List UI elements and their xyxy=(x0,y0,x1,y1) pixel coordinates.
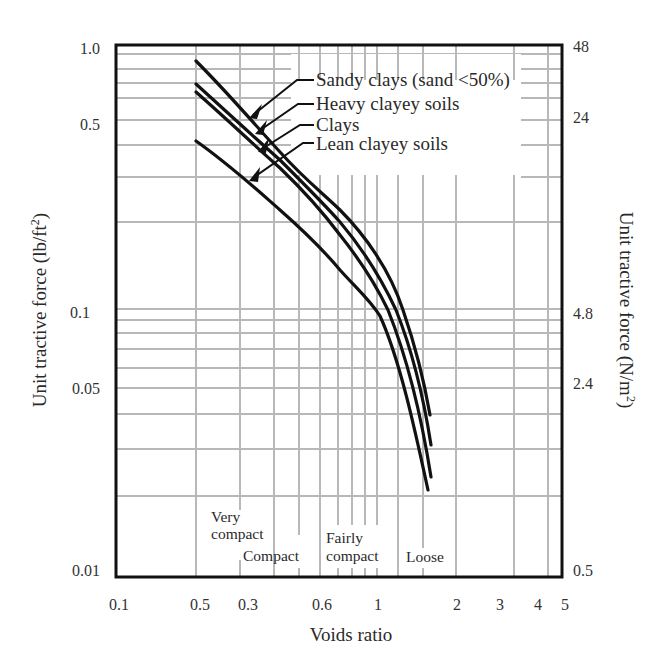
region-very-compact-line1: Very xyxy=(211,508,241,525)
region-very-compact-line2: compact xyxy=(211,525,264,542)
x-axis-title: Voids ratio xyxy=(310,624,393,645)
region-fairly-compact-line2: compact xyxy=(326,547,379,564)
x-tick: 0.3 xyxy=(238,596,258,613)
x-tick: 4 xyxy=(534,596,542,613)
y-right-axis-title: Unit tractive force (N/m2) xyxy=(615,212,638,408)
x-tick: 1 xyxy=(374,596,382,613)
region-loose: Loose xyxy=(406,548,444,565)
y-right-tick: 0.5 xyxy=(573,562,593,579)
y-left-tick: 0.01 xyxy=(72,562,100,579)
x-tick: 0.6 xyxy=(312,596,332,613)
legend-lean-clayey-soils: Lean clayey soils xyxy=(316,133,448,154)
y-left-axis-title: Unit tractive force (lb/ft2) xyxy=(28,213,51,407)
y-right-tick: 2.4 xyxy=(573,375,593,392)
arrow-head-icon xyxy=(249,167,260,182)
y-left-tick: 0.5 xyxy=(80,116,100,133)
y-left-tick: 1.0 xyxy=(80,40,100,57)
y-right-tick: 4.8 xyxy=(573,305,593,322)
x-tick: 3 xyxy=(496,596,504,613)
y-left-tick: 0.05 xyxy=(72,380,100,397)
y-right-tick: 48 xyxy=(573,38,589,55)
y-right-tick: 24 xyxy=(573,109,589,126)
legend-clays: Clays xyxy=(316,114,359,135)
region-compact: Compact xyxy=(243,547,300,564)
y-left-tick: 0.1 xyxy=(70,304,90,321)
x-tick: 5 xyxy=(561,596,569,613)
x-tick: 0.5 xyxy=(190,596,210,613)
region-fairly-compact-line1: Fairly xyxy=(326,529,363,546)
tractive-force-chart: Sandy clays (sand <50%) Heavy clayey soi… xyxy=(0,0,662,664)
legend-sandy-clays: Sandy clays (sand <50%) xyxy=(316,69,510,91)
legend-heavy-clayey-soils: Heavy clayey soils xyxy=(316,93,460,114)
x-tick: 0.1 xyxy=(109,596,129,613)
arrow-head-icon xyxy=(249,104,262,119)
x-tick: 2 xyxy=(453,596,461,613)
